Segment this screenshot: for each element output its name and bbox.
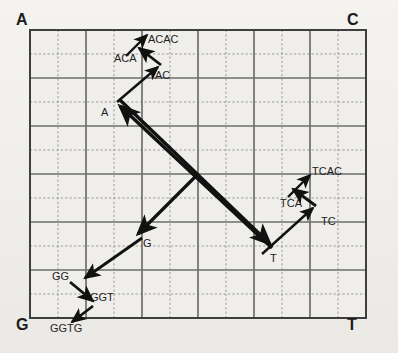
corner-label-g: G	[16, 317, 28, 333]
corner-label-a: A	[16, 12, 28, 28]
node-label-t: T	[270, 253, 277, 264]
cgr-figure: A C G T A AC ACA ACAC G GG GGT GGTG T TC…	[0, 0, 398, 353]
corner-label-c: C	[347, 12, 359, 28]
node-label-tcac: TCAC	[312, 166, 342, 177]
node-label-gg: GG	[52, 271, 69, 282]
node-label-ac: AC	[155, 70, 170, 81]
node-label-tca: TCA	[280, 198, 302, 209]
corner-label-t: T	[347, 317, 357, 333]
node-label-ggt: GGT	[90, 292, 114, 303]
node-label-tc: TC	[321, 216, 336, 227]
node-label-aca: ACA	[114, 53, 137, 64]
node-label-a: A	[101, 107, 108, 118]
node-label-ggtg: GGTG	[50, 323, 82, 334]
node-label-g: G	[143, 238, 152, 249]
node-label-acac: ACAC	[148, 34, 179, 45]
